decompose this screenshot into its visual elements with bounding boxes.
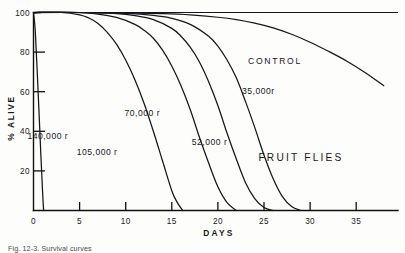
curve-label-140-000-r: 140,000 r bbox=[27, 131, 68, 141]
x-tick-labels-group: 5 10 15 20 25 30 35 bbox=[77, 217, 361, 226]
x-tick-label-10: 10 bbox=[121, 217, 131, 226]
x-tick-label-20: 20 bbox=[213, 217, 223, 226]
y-tick-label-0: 0 bbox=[31, 217, 36, 226]
y-tick-label-100: 100 bbox=[15, 9, 30, 18]
figure-caption: Fig. 12-3. Survival curves bbox=[8, 244, 398, 253]
x-tick-label-30: 30 bbox=[305, 217, 315, 226]
x-tick-label-35: 35 bbox=[351, 217, 361, 226]
y-tick-label-20: 20 bbox=[20, 167, 30, 176]
x-tick-label-15: 15 bbox=[167, 217, 177, 226]
x-axis-title: DAYS bbox=[203, 228, 234, 238]
curve-label-70-000-r: 70,000 r bbox=[125, 108, 161, 118]
curve-140-000-r bbox=[34, 13, 44, 211]
curve-label-105-000-r: 105,000 r bbox=[77, 147, 118, 157]
curve-control bbox=[34, 12, 384, 85]
x-tick-label-25: 25 bbox=[259, 217, 269, 226]
curve-105-000-r bbox=[34, 12, 183, 210]
curve-label-35-000-r: 35,000r bbox=[242, 86, 275, 96]
y-tick-label-60: 60 bbox=[20, 88, 30, 97]
curve-labels-group: 35,000r52,000 r70,000 r105,000 r140,000 … bbox=[27, 56, 302, 157]
y-axis-title: % ALIVE bbox=[6, 95, 16, 140]
curve-label-52-000-r: 52,000 r bbox=[192, 137, 228, 147]
annotation-fruit-flies: FRUIT FLIES bbox=[258, 152, 343, 163]
y-tick-label-80: 80 bbox=[20, 48, 30, 57]
x-ticks-group bbox=[80, 202, 357, 211]
curve-35-000-r bbox=[34, 12, 301, 210]
x-tick-label-5: 5 bbox=[77, 217, 82, 226]
curve-label-control: CONTROL bbox=[248, 56, 302, 66]
data-curves-group bbox=[34, 12, 384, 210]
